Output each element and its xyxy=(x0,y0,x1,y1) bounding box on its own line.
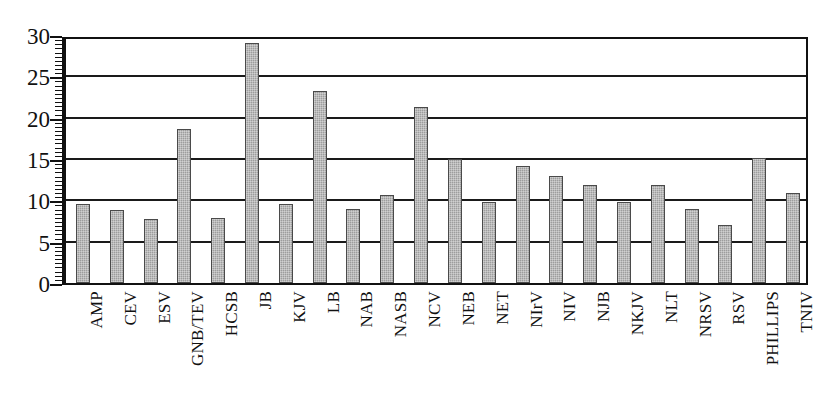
bar-NLT xyxy=(651,185,665,283)
minor-tick-12.5 xyxy=(55,181,62,182)
bar-slot xyxy=(539,39,573,283)
minor-tick-9 xyxy=(55,210,62,211)
minor-tick-12 xyxy=(55,185,62,186)
bar-slot xyxy=(742,39,776,283)
minor-tick-13 xyxy=(55,177,62,178)
bar-slot xyxy=(134,39,168,283)
minor-tick-22.5 xyxy=(55,98,62,99)
bar-slot xyxy=(607,39,641,283)
bar-NCV xyxy=(414,107,428,283)
minor-tick-7 xyxy=(55,226,62,227)
minor-tick-18.5 xyxy=(55,131,62,132)
major-tick-15 xyxy=(50,160,62,162)
x-label-slot: NLT xyxy=(639,287,673,411)
minor-tick-6.5 xyxy=(55,230,62,231)
bar-slot xyxy=(675,39,709,283)
minor-tick-27 xyxy=(55,61,62,62)
bar-NIrV xyxy=(516,166,530,283)
minor-tick-28 xyxy=(55,53,62,54)
bar-CEV xyxy=(110,210,124,283)
minor-tick-7.5 xyxy=(55,222,62,223)
bar-NRSV xyxy=(685,209,699,283)
x-label-slot: NKJV xyxy=(605,287,639,411)
minor-tick-29 xyxy=(55,44,62,45)
minor-tick-3 xyxy=(55,259,62,260)
minor-tick-4 xyxy=(55,251,62,252)
minor-tick-25.5 xyxy=(55,73,62,74)
minor-tick-5.5 xyxy=(55,239,62,240)
bar-NKJV xyxy=(617,202,631,283)
minor-tick-17 xyxy=(55,143,62,144)
x-label-slot: HCSB xyxy=(199,287,233,411)
x-label-slot: NRSV xyxy=(673,287,707,411)
minor-tick-17.5 xyxy=(55,139,62,140)
x-label-slot: CEV xyxy=(98,287,132,411)
x-axis-category-labels: AMPCEVESVGNB/TEVHCSBJBKJVLBNABNASBNCVNEB… xyxy=(64,287,808,411)
x-label-slot: NIV xyxy=(537,287,571,411)
bar-slot xyxy=(404,39,438,283)
x-label-slot: NEB xyxy=(436,287,470,411)
minor-tick-15.5 xyxy=(55,156,62,157)
minor-tick-23.5 xyxy=(55,90,62,91)
bar-slot xyxy=(167,39,201,283)
minor-tick-0.5 xyxy=(55,280,62,281)
minor-tick-1 xyxy=(55,276,62,277)
bar-JB xyxy=(245,43,259,283)
minor-tick-14.5 xyxy=(55,164,62,165)
minor-tick-3.5 xyxy=(55,255,62,256)
bar-HCSB xyxy=(211,218,225,283)
bar-AMP xyxy=(76,204,90,283)
minor-tick-16.5 xyxy=(55,148,62,149)
minor-tick-19 xyxy=(55,127,62,128)
bar-RSV xyxy=(718,225,732,283)
minor-tick-18 xyxy=(55,135,62,136)
minor-tick-2 xyxy=(55,267,62,268)
x-label-slot: NASB xyxy=(368,287,402,411)
bar-slot xyxy=(235,39,269,283)
minor-tick-24.5 xyxy=(55,81,62,82)
bars-layer xyxy=(66,39,806,283)
minor-tick-21.5 xyxy=(55,106,62,107)
minor-tick-8.5 xyxy=(55,214,62,215)
x-label-slot: RSV xyxy=(707,287,741,411)
minor-tick-13.5 xyxy=(55,172,62,173)
bar-slot xyxy=(776,39,810,283)
minor-tick-26.5 xyxy=(55,65,62,66)
minor-tick-26 xyxy=(55,69,62,70)
bar-slot xyxy=(573,39,607,283)
y-tick-label-15: 15 xyxy=(8,148,50,174)
x-label-slot: LB xyxy=(301,287,335,411)
minor-tick-21 xyxy=(55,110,62,111)
minor-tick-28.5 xyxy=(55,48,62,49)
major-tick-30 xyxy=(50,36,62,38)
bar-NET xyxy=(482,202,496,283)
y-axis xyxy=(56,37,64,285)
x-label-slot: PHILLIPS xyxy=(740,287,774,411)
bar-chart: 051015202530 AMPCEVESVGNB/TEVHCSBJBKJVLB… xyxy=(0,0,824,411)
bar-NJB xyxy=(583,185,597,283)
minor-tick-29.5 xyxy=(55,40,62,41)
bar-slot xyxy=(506,39,540,283)
minor-tick-10.5 xyxy=(55,197,62,198)
minor-tick-8 xyxy=(55,218,62,219)
major-tick-0 xyxy=(50,284,62,286)
bar-NIV xyxy=(549,176,563,283)
bar-slot xyxy=(709,39,743,283)
major-tick-20 xyxy=(50,119,62,121)
x-label-slot: KJV xyxy=(267,287,301,411)
x-label-slot: NCV xyxy=(402,287,436,411)
minor-tick-11 xyxy=(55,193,62,194)
bar-slot xyxy=(303,39,337,283)
bar-slot xyxy=(370,39,404,283)
bar-TNIV xyxy=(786,193,800,283)
minor-tick-20.5 xyxy=(55,115,62,116)
bar-slot xyxy=(100,39,134,283)
bar-slot xyxy=(438,39,472,283)
major-tick-5 xyxy=(50,243,62,245)
minor-tick-19.5 xyxy=(55,123,62,124)
bar-PHILLIPS xyxy=(752,158,766,283)
x-label-slot: GNB/TEV xyxy=(165,287,199,411)
x-tick-label-TNIV: TNIV xyxy=(797,291,817,332)
minor-tick-11.5 xyxy=(55,189,62,190)
minor-tick-27.5 xyxy=(55,57,62,58)
